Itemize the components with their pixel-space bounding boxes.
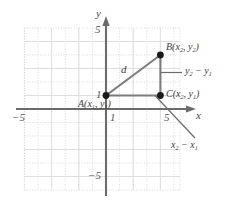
x-tick-label-1: 1	[110, 112, 116, 123]
y-axis-label: y	[96, 8, 101, 19]
point-C-x-sub: 2	[180, 93, 183, 100]
horizontal-leg-minus: −	[179, 139, 191, 150]
point-B-marker	[157, 52, 164, 59]
point-A-x-sub: 1	[92, 103, 95, 110]
point-C-name: C	[166, 88, 173, 99]
hypotenuse-label-d: d	[121, 64, 127, 75]
vertical-leg-minus: −	[193, 65, 205, 76]
point-A-paren-close: )	[108, 98, 111, 109]
y-axis-arrow	[102, 16, 109, 26]
vertical-leg-label: y2 − y1	[185, 66, 212, 76]
vertical-leg-y2-sub: 2	[189, 70, 192, 77]
point-A-y-sub: 1	[104, 103, 107, 110]
vertical-leg-y1-sub: 1	[209, 70, 212, 77]
point-B-y-sub: 2	[192, 46, 195, 53]
x-axis-label: x	[196, 110, 201, 121]
point-C-marker	[157, 92, 164, 99]
horizontal-leg-label: x2 − x1	[171, 140, 198, 150]
point-C-y-sub: 1	[193, 93, 196, 100]
x-tick-label-5: 5	[164, 112, 170, 123]
x-axis-arrow	[186, 105, 196, 112]
horizontal-leg-leader-line	[155, 96, 195, 139]
point-C-label: C(x2, y1)	[166, 89, 199, 99]
point-C-paren-close: )	[196, 88, 199, 99]
point-B-label: B(x2, y2)	[166, 42, 199, 52]
coordinate-plane-figure: −5 1 5 5 1 −5 x y A(x1, y1) B(x2, y2) C(…	[0, 0, 234, 208]
point-A-label: A(x1, y1)	[78, 99, 111, 109]
point-B-x-sub: 2	[180, 46, 183, 53]
x-tick-label-neg5: −5	[12, 112, 25, 123]
horizontal-leg-x2-sub: 2	[175, 144, 178, 151]
y-tick-label-neg5: −5	[88, 170, 101, 181]
diagram-canvas	[0, 0, 234, 208]
horizontal-leg-x1-sub: 1	[195, 144, 198, 151]
y-tick-label-5: 5	[95, 24, 101, 35]
point-B-paren-close: )	[196, 41, 199, 52]
axis-lines	[16, 22, 190, 196]
